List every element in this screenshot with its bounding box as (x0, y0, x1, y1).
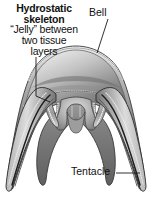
label-bell: Bell (89, 7, 107, 18)
label-tentacle: Tentacle (71, 166, 110, 177)
label-hydrostatic-line5: layers (6, 46, 82, 57)
leader-line-bell (97, 19, 108, 53)
label-hydrostatic-skeleton: Hydrostatic skeleton “Jelly” between two… (6, 3, 82, 57)
